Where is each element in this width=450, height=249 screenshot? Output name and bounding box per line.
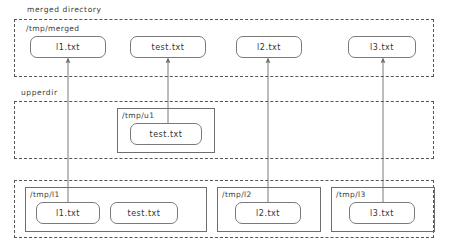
merged-file-l2[interactable]: l2.txt <box>236 36 302 58</box>
lowerdir-l2-file-l2[interactable]: l2.txt <box>235 202 301 224</box>
merged-path-label: /tmp/merged <box>26 24 79 33</box>
lowerdir-l1-file-l1-label: l1.txt <box>56 209 80 218</box>
lowerdir-l1-file-test[interactable]: test.txt <box>110 202 178 224</box>
upperdir-file-test[interactable]: test.txt <box>130 123 202 145</box>
lowerdir-l2-file-l2-label: l2.txt <box>256 209 280 218</box>
diagram-canvas: merged directory /tmp/merged l1.txt test… <box>0 0 450 249</box>
merged-file-l1-label: l1.txt <box>56 43 80 52</box>
merged-file-l3-label: l3.txt <box>370 43 394 52</box>
upperdir-u1-path-label: /tmp/u1 <box>122 111 154 120</box>
lowerdir-l1-file-l1[interactable]: l1.txt <box>36 202 100 224</box>
merged-file-l3[interactable]: l3.txt <box>348 36 416 58</box>
upperdir-section-label: upperdir <box>21 88 58 97</box>
merged-file-test-label: test.txt <box>152 43 185 52</box>
upperdir-container <box>14 101 434 159</box>
merged-file-l1[interactable]: l1.txt <box>30 36 106 58</box>
lowerdir-l3-file-l3-label: l3.txt <box>370 209 394 218</box>
lowerdir-l1-path-label: /tmp/l1 <box>30 190 60 199</box>
merged-file-test[interactable]: test.txt <box>130 36 206 58</box>
lowerdir-l3-path-label: /tmp/l3 <box>336 190 366 199</box>
merged-section-label: merged directory <box>27 5 102 14</box>
upperdir-file-test-label: test.txt <box>150 130 183 139</box>
lowerdir-l2-path-label: /tmp/l2 <box>222 190 252 199</box>
merged-file-l2-label: l2.txt <box>257 43 281 52</box>
lowerdir-l1-file-test-label: test.txt <box>128 209 161 218</box>
lowerdir-l3-file-l3[interactable]: l3.txt <box>349 202 415 224</box>
